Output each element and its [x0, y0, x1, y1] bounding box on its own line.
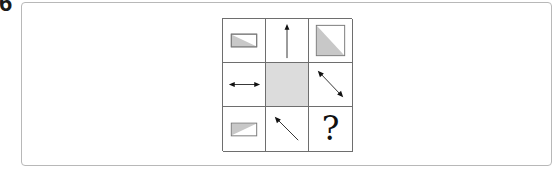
cell-r3-c3-missing: ? — [309, 107, 353, 152]
arrow-diagonal-double-icon — [309, 63, 352, 106]
cell-r1-c2 — [266, 19, 309, 63]
cell-r1-c3 — [309, 19, 353, 63]
puzzle-grid: ? — [222, 18, 352, 151]
question-mark: ? — [309, 110, 352, 148]
rectangle-half-shaded-icon — [223, 107, 265, 151]
cell-r3-c2 — [266, 107, 309, 152]
arrow-up-icon — [266, 19, 308, 62]
arrow-left-right-icon — [223, 63, 265, 106]
arrow-up-left-icon — [266, 107, 308, 151]
square-half-shaded-icon — [309, 19, 352, 62]
cell-r2-c1 — [223, 63, 266, 107]
cell-r1-c1 — [223, 19, 266, 63]
cell-r2-c2-center — [266, 63, 309, 107]
cell-r3-c1 — [223, 107, 266, 152]
cell-r2-c3 — [309, 63, 353, 107]
question-number: 6 — [0, 0, 12, 15]
rectangle-half-shaded-icon — [223, 19, 265, 62]
